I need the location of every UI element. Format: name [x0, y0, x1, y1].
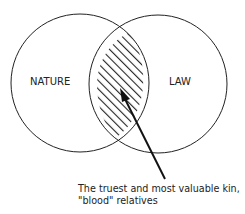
pointer-arrow-line — [124, 97, 165, 179]
caption-line-1: The truest and most valuable kin, — [78, 183, 240, 195]
caption-line-2: "blood" relatives — [78, 195, 240, 207]
annotation-caption: The truest and most valuable kin, "blood… — [78, 183, 240, 206]
venn-diagram: NATURE LAW — [0, 0, 245, 214]
nature-label: NATURE — [30, 76, 70, 87]
law-label: LAW — [169, 76, 191, 87]
